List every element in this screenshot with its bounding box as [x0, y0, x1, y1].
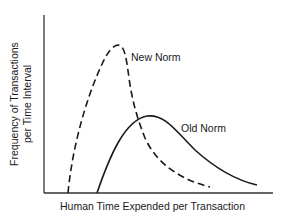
x-axis-label: Human Time Expended per Transaction — [60, 200, 245, 212]
y-axis-label-line2: per Time Interval — [21, 24, 34, 184]
new-norm-label: New Norm — [131, 51, 181, 63]
old-norm-curve — [97, 116, 257, 193]
chart-canvas — [0, 0, 285, 219]
y-axis-label-line1: Frequency of Transactions — [8, 24, 21, 184]
old-norm-label: Old Norm — [181, 122, 226, 134]
y-axis-label: Frequency of Transactions per Time Inter… — [8, 24, 38, 184]
